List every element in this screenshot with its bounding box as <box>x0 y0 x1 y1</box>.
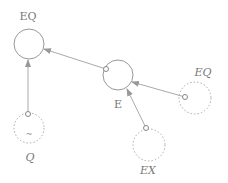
edge-eqright-to-e <box>132 82 185 97</box>
port-handle-e[interactable] <box>104 67 109 72</box>
label-ex: EX <box>139 164 157 177</box>
node-ex[interactable] <box>133 129 165 161</box>
label-e: E <box>114 98 122 111</box>
q-inner-mark: ~ <box>26 130 33 139</box>
port-handle-q[interactable] <box>26 112 31 117</box>
label-eq-top: EQ <box>19 10 36 23</box>
edge-ex-to-e <box>127 89 146 128</box>
diagram-canvas: EQ E EQ EX Q ~ <box>0 0 228 183</box>
edge-e-to-eq <box>44 49 106 69</box>
port-handle-ex[interactable] <box>144 126 149 131</box>
label-eq-right: EQ <box>193 66 211 79</box>
node-e[interactable] <box>103 60 133 90</box>
node-eq-top[interactable] <box>14 29 44 59</box>
port-handle-eq-right[interactable] <box>183 95 188 100</box>
label-q: Q <box>25 151 34 164</box>
